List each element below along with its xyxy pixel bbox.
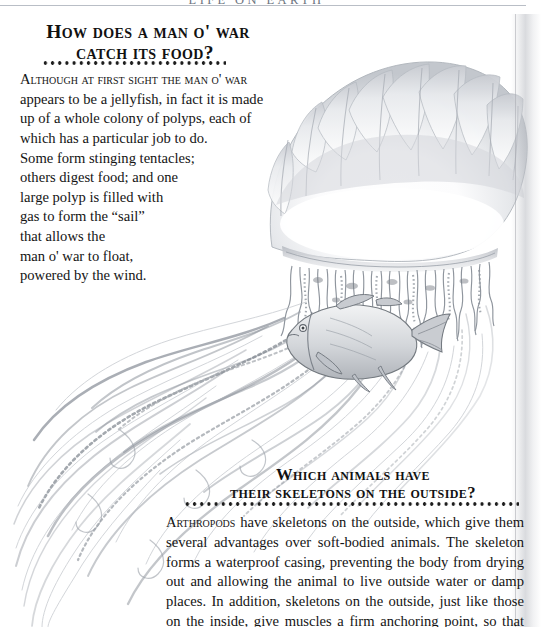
paragraph-man-o-war-line-7: large polyp is filled with xyxy=(20,188,276,208)
fish-in-tentacles xyxy=(287,294,450,392)
paragraph-man-o-war: Although at first sight the man o' war a… xyxy=(20,70,276,286)
heading-man-o-war: How does a man o' war catch its food? xyxy=(20,22,270,63)
book-page: LIFE ON EARTH xyxy=(0,0,541,627)
paragraph-man-o-war-line-9: that allows the xyxy=(20,227,276,247)
paragraph-man-o-war-line-2: appears to be a jellyfish, in fact it is… xyxy=(20,90,276,110)
paragraph-man-o-war-line-6: others digest food; and one xyxy=(20,168,276,188)
running-header: LIFE ON EARTH xyxy=(0,0,541,8)
paragraph-man-o-war-line-3: up of a whole colony of polyps, each of xyxy=(20,109,276,129)
heading-skeletons-line-2: their skeletons on the outside? xyxy=(175,484,531,502)
gas-float-sail xyxy=(268,62,527,272)
heading-man-o-war-line-1: How does a man o' war xyxy=(20,22,270,43)
paragraph-man-o-war-line-11: powered by the wind. xyxy=(20,266,276,286)
polyp-cluster xyxy=(281,262,494,350)
paragraph-man-o-war-line-5: Some form stinging tentacles; xyxy=(20,149,276,169)
paragraph-man-o-war-line-1: Although at first sight the man o' war xyxy=(20,70,276,90)
paragraph-skeletons-text: Arthropods have skeletons on the outside… xyxy=(166,514,524,627)
paragraph-skeletons-lead-word: Arthropods xyxy=(166,514,235,530)
paragraph-man-o-war-line-10: man o' war to float, xyxy=(20,247,276,267)
paragraph-man-o-war-line-8: gas to form the “sail” xyxy=(20,207,276,227)
heading-skeletons: Which animals have their skeletons on th… xyxy=(175,466,531,501)
paragraph-man-o-war-line-4: which has a particular job to do. xyxy=(20,129,276,149)
dotted-rule-man-o-war xyxy=(43,60,226,66)
heading-skeletons-line-1: Which animals have xyxy=(175,466,531,484)
dotted-rule-skeletons xyxy=(185,501,519,507)
paragraph-skeletons: Arthropods have skeletons on the outside… xyxy=(166,513,524,627)
